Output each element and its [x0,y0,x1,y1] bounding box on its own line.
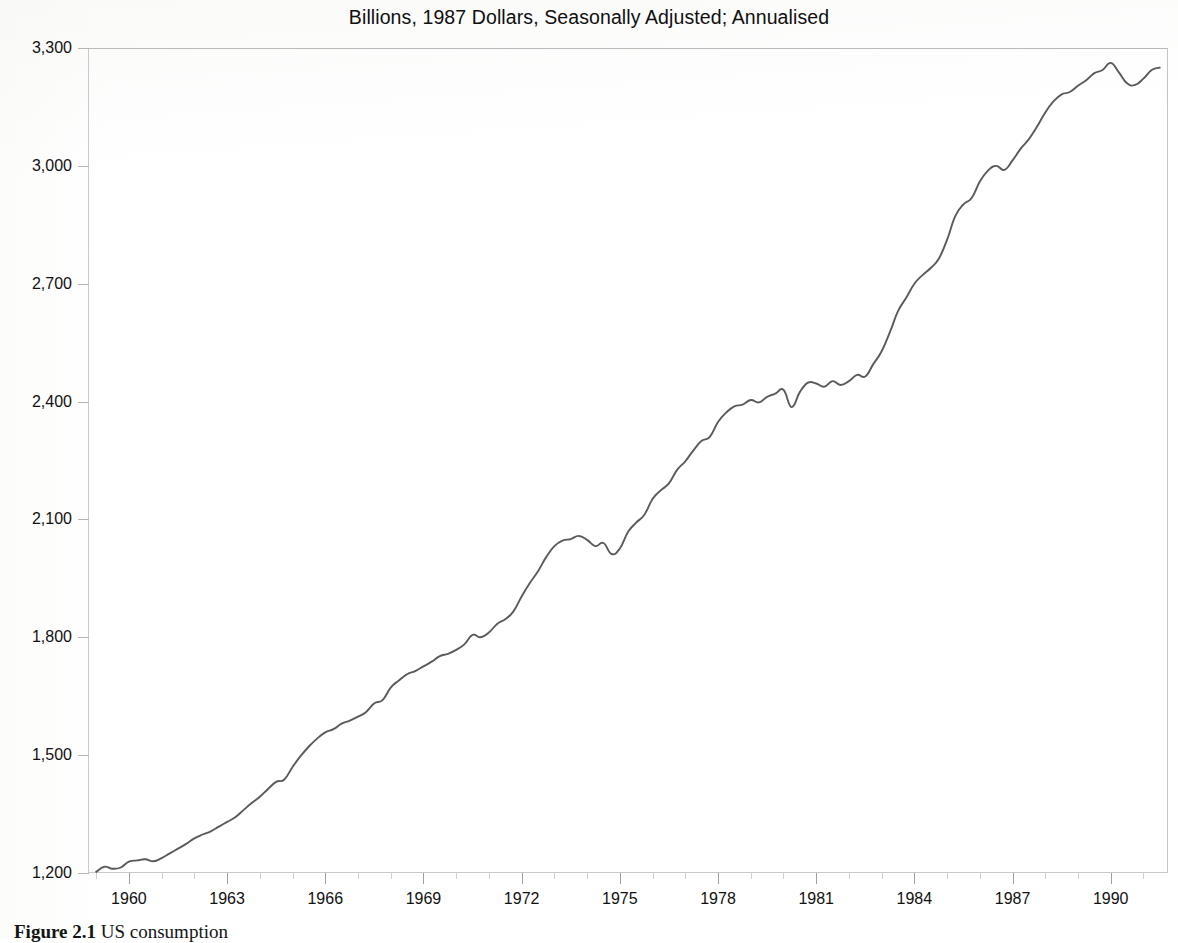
x-tick-mark-minor [1143,873,1144,879]
y-tick-label: 2,100 [0,510,72,528]
y-tick-mark [78,519,89,520]
y-tick-label: 3,300 [0,39,72,57]
x-tick-mark-minor [653,873,654,879]
y-tick-label: 2,700 [0,275,72,293]
x-tick-mark-major [227,873,228,884]
x-tick-label: 1987 [973,890,1053,908]
x-tick-mark-major [1111,873,1112,884]
y-tick-label: 1,500 [0,746,72,764]
y-tick-label: 2,400 [0,393,72,411]
x-tick-label: 1972 [482,890,562,908]
x-tick-label: 1969 [383,890,463,908]
x-tick-mark-minor [882,873,883,879]
x-tick-mark-minor [1045,873,1046,879]
figure-caption-text: US consumption [101,921,228,942]
x-tick-mark-major [325,873,326,884]
x-tick-label: 1960 [89,890,169,908]
data-line-us-consumption [96,63,1160,872]
x-tick-mark-major [816,873,817,884]
x-tick-mark-minor [947,873,948,879]
x-tick-mark-minor [980,873,981,879]
x-tick-mark-minor [194,873,195,879]
x-tick-mark-major [423,873,424,884]
x-tick-label: 1966 [285,890,365,908]
x-tick-mark-minor [587,873,588,879]
x-tick-mark-minor [685,873,686,879]
x-tick-mark-minor [358,873,359,879]
x-tick-mark-minor [162,873,163,879]
x-tick-mark-major [129,873,130,884]
x-tick-mark-minor [456,873,457,879]
y-tick-mark [78,48,89,49]
y-tick-label: 3,000 [0,157,72,175]
x-tick-mark-major [1013,873,1014,884]
y-tick-mark [78,873,89,874]
x-tick-label: 1963 [187,890,267,908]
y-tick-mark [78,166,89,167]
x-tick-mark-major [620,873,621,884]
x-tick-mark-minor [1078,873,1079,879]
x-tick-mark-minor [783,873,784,879]
x-tick-mark-minor [96,873,97,879]
x-tick-mark-minor [849,873,850,879]
x-tick-label: 1981 [776,890,856,908]
x-tick-label: 1990 [1071,890,1151,908]
y-tick-label: 1,800 [0,628,72,646]
x-tick-label: 1975 [580,890,660,908]
y-tick-mark [78,755,89,756]
x-tick-mark-minor [489,873,490,879]
x-tick-mark-minor [751,873,752,879]
figure-caption: Figure 2.1 US consumption [14,921,1164,943]
x-tick-mark-major [522,873,523,884]
y-tick-label: 1,200 [0,864,72,882]
x-tick-mark-minor [293,873,294,879]
x-tick-label: 1978 [678,890,758,908]
x-tick-mark-minor [260,873,261,879]
chart-plot [88,48,1168,873]
x-tick-mark-major [914,873,915,884]
y-tick-mark [78,637,89,638]
y-tick-mark [78,402,89,403]
y-tick-mark [78,284,89,285]
chart-title: Billions, 1987 Dollars, Seasonally Adjus… [0,6,1178,29]
x-tick-mark-minor [391,873,392,879]
x-tick-mark-major [718,873,719,884]
figure-number: Figure 2.1 [14,921,96,942]
x-tick-mark-minor [554,873,555,879]
x-tick-label: 1984 [874,890,954,908]
